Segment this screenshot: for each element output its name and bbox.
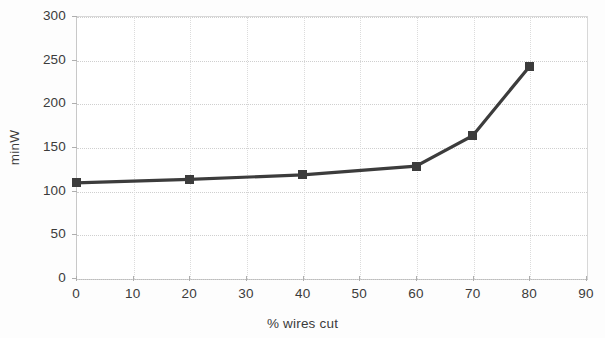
data-point-marker xyxy=(412,162,421,171)
gridline-vertical xyxy=(190,17,191,279)
gridline-horizontal xyxy=(77,104,587,105)
gridline-vertical xyxy=(304,17,305,279)
x-axis-tick-label: 0 xyxy=(56,287,96,301)
gridline-vertical xyxy=(247,17,248,279)
gridline-vertical xyxy=(360,17,361,279)
x-axis-tick-label: 40 xyxy=(283,287,323,301)
x-axis-tick-label: 90 xyxy=(566,287,605,301)
data-point-marker xyxy=(185,175,194,184)
y-axis-tick-label: 100 xyxy=(8,184,66,198)
y-axis-tick-label: 300 xyxy=(8,9,66,23)
gridline-horizontal xyxy=(77,148,587,149)
y-axis-tick-label: 0 xyxy=(8,271,66,285)
y-axis-tick-label: 50 xyxy=(8,227,66,241)
x-axis-tick-label: 10 xyxy=(113,287,153,301)
y-axis-title: minW xyxy=(7,118,22,178)
gridline-horizontal xyxy=(77,17,587,18)
gridline-vertical xyxy=(417,17,418,279)
data-point-marker xyxy=(468,131,477,140)
x-axis-tick-label: 30 xyxy=(226,287,266,301)
x-axis-tick-mark xyxy=(246,276,247,281)
x-axis-tick-mark xyxy=(133,276,134,281)
x-axis-tick-mark xyxy=(586,276,587,281)
gridline-horizontal xyxy=(77,192,587,193)
gridline-horizontal xyxy=(77,235,587,236)
y-axis-tick-mark xyxy=(72,234,77,235)
gridline-horizontal xyxy=(77,61,587,62)
chart-figure: 050100150200250300 0102030405060708090 %… xyxy=(0,0,605,338)
y-axis-tick-mark xyxy=(72,103,77,104)
data-point-marker xyxy=(72,178,81,187)
y-axis-tick-mark xyxy=(72,60,77,61)
x-axis-tick-label: 60 xyxy=(396,287,436,301)
data-point-marker xyxy=(298,170,307,179)
x-axis-title: % wires cut xyxy=(0,316,605,331)
x-axis-tick-mark xyxy=(416,276,417,281)
x-axis-tick-label: 80 xyxy=(509,287,549,301)
x-axis-tick-mark xyxy=(76,276,77,281)
plot-area xyxy=(76,16,588,280)
x-axis-tick-label: 20 xyxy=(169,287,209,301)
gridline-horizontal xyxy=(77,279,587,280)
gridline-vertical xyxy=(134,17,135,279)
y-axis-tick-label: 200 xyxy=(8,96,66,110)
x-axis-tick-mark xyxy=(529,276,530,281)
gridline-vertical xyxy=(474,17,475,279)
x-axis-tick-mark xyxy=(189,276,190,281)
data-point-marker xyxy=(525,62,534,71)
y-axis-tick-label: 250 xyxy=(8,53,66,67)
y-axis-tick-mark xyxy=(72,147,77,148)
y-axis-tick-mark xyxy=(72,191,77,192)
x-axis-tick-mark xyxy=(303,276,304,281)
x-axis-tick-mark xyxy=(473,276,474,281)
gridline-vertical xyxy=(530,17,531,279)
x-axis-tick-mark xyxy=(359,276,360,281)
x-axis-tick-label: 50 xyxy=(339,287,379,301)
y-axis-tick-mark xyxy=(72,16,77,17)
x-axis-tick-label: 70 xyxy=(453,287,493,301)
